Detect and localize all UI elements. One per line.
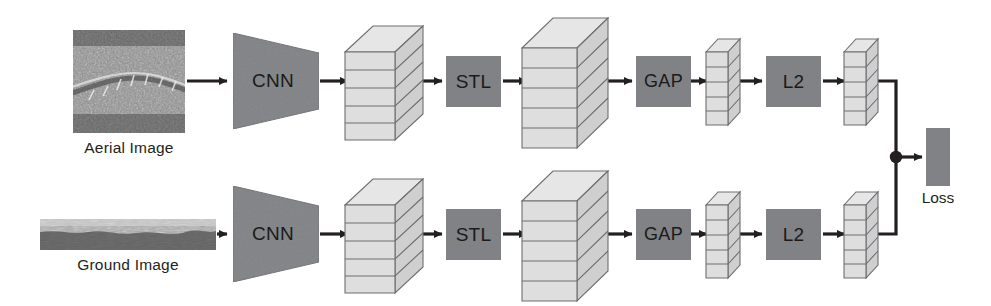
feature-volume-2-aerial[interactable] — [521, 12, 609, 150]
stl-label-aerial: STL — [446, 56, 501, 107]
l2-label-ground: L2 — [766, 209, 821, 260]
gap-block-aerial[interactable]: GAP — [636, 56, 691, 107]
loss-block[interactable] — [926, 128, 950, 186]
stl-label-ground: STL — [446, 209, 501, 260]
feature-vector-1-ground[interactable] — [705, 189, 741, 281]
stl-block-ground[interactable]: STL — [446, 209, 501, 260]
feature-volume-1-aerial[interactable] — [344, 20, 424, 142]
ground-image-caption: Ground Image — [40, 256, 216, 274]
l2-block-ground[interactable]: L2 — [766, 209, 821, 260]
ground-image — [40, 219, 216, 250]
cnn-label-aerial: CNN — [227, 31, 319, 131]
cnn-label-ground: CNN — [227, 184, 319, 284]
feature-volume-2-ground[interactable] — [521, 165, 609, 303]
architecture-diagram: Aerial Image Ground Image CNN STL — [0, 0, 991, 306]
aerial-image — [73, 30, 185, 133]
feature-vector-2-ground[interactable] — [843, 189, 879, 281]
gap-label-ground: GAP — [636, 209, 691, 260]
gap-block-ground[interactable]: GAP — [636, 209, 691, 260]
merge-junction-dot — [890, 151, 902, 163]
feature-vector-1-aerial[interactable] — [705, 36, 741, 128]
aerial-image-caption: Aerial Image — [73, 139, 185, 157]
feature-vector-2-aerial[interactable] — [843, 36, 879, 128]
cnn-block-aerial[interactable]: CNN — [231, 31, 323, 131]
feature-volume-1-ground[interactable] — [344, 173, 424, 295]
l2-block-aerial[interactable]: L2 — [766, 56, 821, 107]
gap-label-aerial: GAP — [636, 56, 691, 107]
cnn-block-ground[interactable]: CNN — [231, 184, 323, 284]
stl-block-aerial[interactable]: STL — [446, 56, 501, 107]
loss-label: Loss — [903, 189, 973, 207]
l2-label-aerial: L2 — [766, 56, 821, 107]
